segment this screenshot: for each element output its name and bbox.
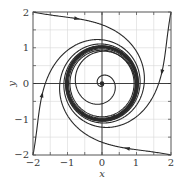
- x-tick-labels: −2 −1 0 1 2: [26, 157, 175, 168]
- x-tick-2: 2: [168, 157, 174, 168]
- x-axis-label: x: [99, 168, 105, 179]
- equilibrium-point: [100, 81, 104, 85]
- x-tick-neg1: −1: [60, 157, 75, 168]
- phase-portrait: 2 1 0 −1 −2 −2 −1 0 1 2 x y: [0, 0, 184, 180]
- x-tick-1: 1: [133, 157, 139, 168]
- x-tick-neg2: −2: [26, 157, 41, 168]
- y-tick-1: 1: [23, 42, 29, 53]
- y-tick-2: 2: [23, 7, 29, 18]
- direction-arrow-icon: [161, 69, 165, 75]
- y-tick-neg1: −1: [14, 114, 29, 125]
- direction-arrow-icon: [40, 92, 44, 98]
- x-tick-0: 0: [99, 157, 105, 168]
- y-tick-0: 0: [23, 78, 29, 89]
- y-axis-label: y: [6, 81, 17, 88]
